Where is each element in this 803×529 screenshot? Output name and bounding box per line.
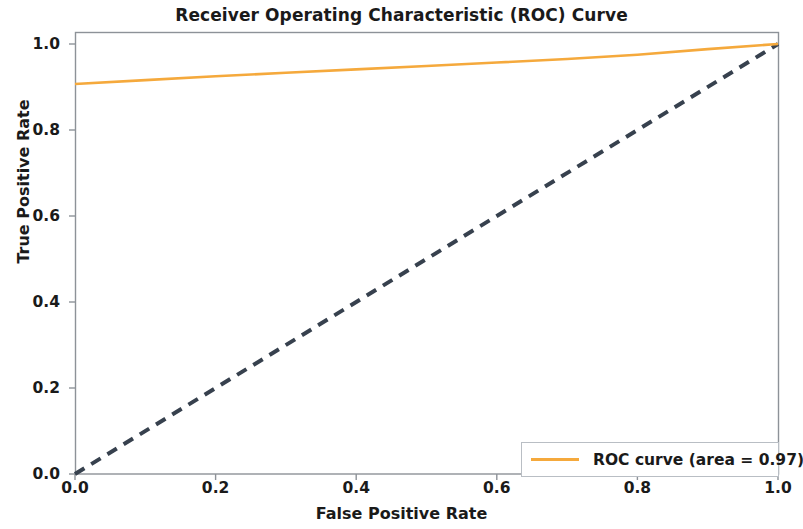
y-tick-label: 1.0 [12,35,60,53]
x-tick-label: 0.2 [202,479,229,497]
y-tick-label: 0.0 [12,465,60,483]
y-tick-label: 0.4 [12,293,60,311]
x-axis-label: False Positive Rate [0,504,803,523]
roc-curve-line [75,44,778,84]
x-tick-label: 0.0 [61,479,88,497]
x-tick-label: 1.0 [764,479,791,497]
x-tick-label: 0.4 [342,479,369,497]
chance-level-line [75,44,778,474]
roc-curve-figure: Receiver Operating Characteristic (ROC) … [0,0,803,529]
y-axis-label: True Positive Rate [14,82,33,282]
legend-line-swatch [531,458,579,461]
x-tick-label: 0.8 [624,479,651,497]
x-tick-label: 0.6 [483,479,510,497]
legend-box: ROC curve (area = 0.97) [521,442,779,477]
y-tick-label: 0.2 [12,379,60,397]
legend-entry-label: ROC curve (area = 0.97) [593,451,803,469]
y-axis-ticks [69,44,75,474]
